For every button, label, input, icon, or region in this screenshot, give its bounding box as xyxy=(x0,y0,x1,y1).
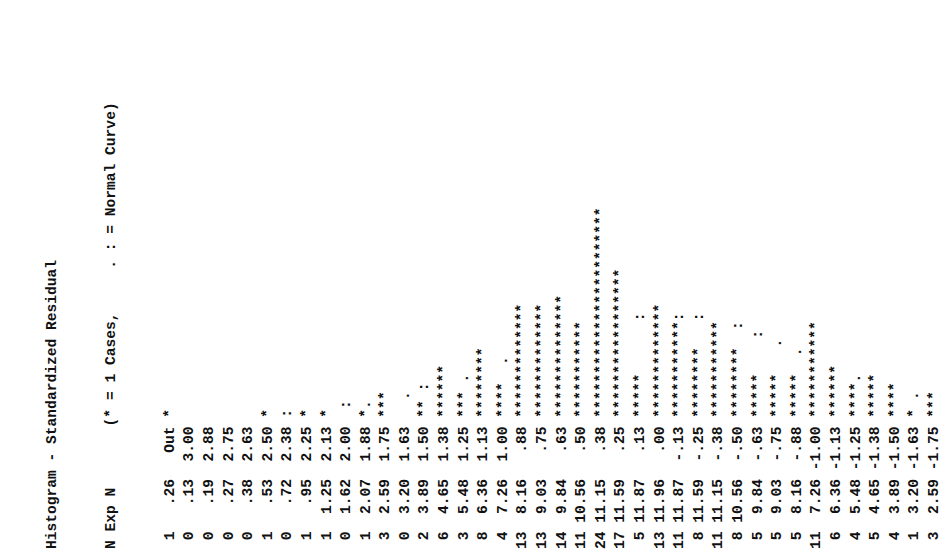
histogram-row: 11 11.15 -.38 *********** xyxy=(709,0,729,549)
histogram-row: 3 5.48 1.25 *** . xyxy=(455,0,475,549)
histogram-row: 3 2.59 1.75 *** xyxy=(376,0,396,549)
histogram-row: 24 11.15 .38 ************************ xyxy=(592,0,612,549)
histogram-row: 6 6.36 -1.13 ****** xyxy=(827,0,847,549)
histogram-row: 1 3.20 -1.63 * . xyxy=(905,0,925,549)
histogram-row: 8 11.59 -.25 ******** : xyxy=(690,0,710,549)
histogram-row: 11 7.26 -1.00 *********** xyxy=(807,0,827,549)
histogram-row: 5 4.65 -1.38 ***** xyxy=(866,0,886,549)
histogram-row: 1 .95 2.25 * xyxy=(298,0,318,549)
histogram-row: 5 9.03 -.75 ***** . xyxy=(768,0,788,549)
histogram-title: Histogram - Standardized Residual xyxy=(43,0,63,549)
histogram-row: 5 11.87 .13 ***** : xyxy=(631,0,651,549)
histogram-row: 13 11.96 .00 ************* xyxy=(651,0,671,549)
histogram-row: 11 11.87 -.13 ***********: xyxy=(670,0,690,549)
histogram-rows: 1 .26 Out * 0 .13 3.00 0 .19 2.88 0 .27 … xyxy=(161,0,941,549)
histogram-legend: N Exp N (* = 1 Cases, . : = Normal Curve… xyxy=(102,0,122,549)
histogram-row: 11 10.56 .50 *********** xyxy=(572,0,592,549)
histogram-row: 5 9.84 -.63 ***** : xyxy=(749,0,769,549)
histogram-row: 0 .27 2.75 xyxy=(220,0,240,549)
histogram-row: 2 3.89 1.50 ** : xyxy=(415,0,435,549)
histogram-row: 1 2.07 1.88 *. xyxy=(357,0,377,549)
histogram-row: 13 9.03 .75 ************* xyxy=(533,0,553,549)
histogram-row: 14 9.84 .63 ************** xyxy=(553,0,573,549)
histogram-row: 13 8.16 .88 ************* xyxy=(513,0,533,549)
histogram-row: 5 8.16 -.88 ***** . xyxy=(788,0,808,549)
histogram-row: 4 7.26 1.00 **** . xyxy=(494,0,514,549)
histogram-row: 0 .19 2.88 xyxy=(200,0,220,549)
histogram-row: 0 1.62 2.00 : xyxy=(337,0,357,549)
histogram-row: 4 5.48 -1.25 ****. xyxy=(847,0,867,549)
histogram-row: 0 .38 2.63 xyxy=(239,0,259,549)
histogram-row: 0 .72 2.38 : xyxy=(278,0,298,549)
histogram-row: 0 .13 3.00 xyxy=(180,0,200,549)
histogram-row: 8 10.56 -.50 ******** : xyxy=(729,0,749,549)
histogram-row: 17 11.59 .25 ***************** xyxy=(611,0,631,549)
histogram-row: 6 4.65 1.38 ****** xyxy=(435,0,455,549)
histogram-row: 0 3.20 1.63 . xyxy=(396,0,416,549)
histogram-row: 8 6.36 1.13 ******** xyxy=(474,0,494,549)
histogram-printout: Histogram - Standardized Residual N Exp … xyxy=(0,0,941,553)
histogram-row: 1 1.25 2.13 * xyxy=(318,0,338,549)
histogram-row: 1 .26 Out * xyxy=(161,0,181,549)
histogram-row: 3 2.59 -1.75 *** xyxy=(925,0,941,549)
histogram-row: 1 .53 2.50 * xyxy=(259,0,279,549)
histogram-row: 4 3.89 -1.50 **** xyxy=(886,0,906,549)
